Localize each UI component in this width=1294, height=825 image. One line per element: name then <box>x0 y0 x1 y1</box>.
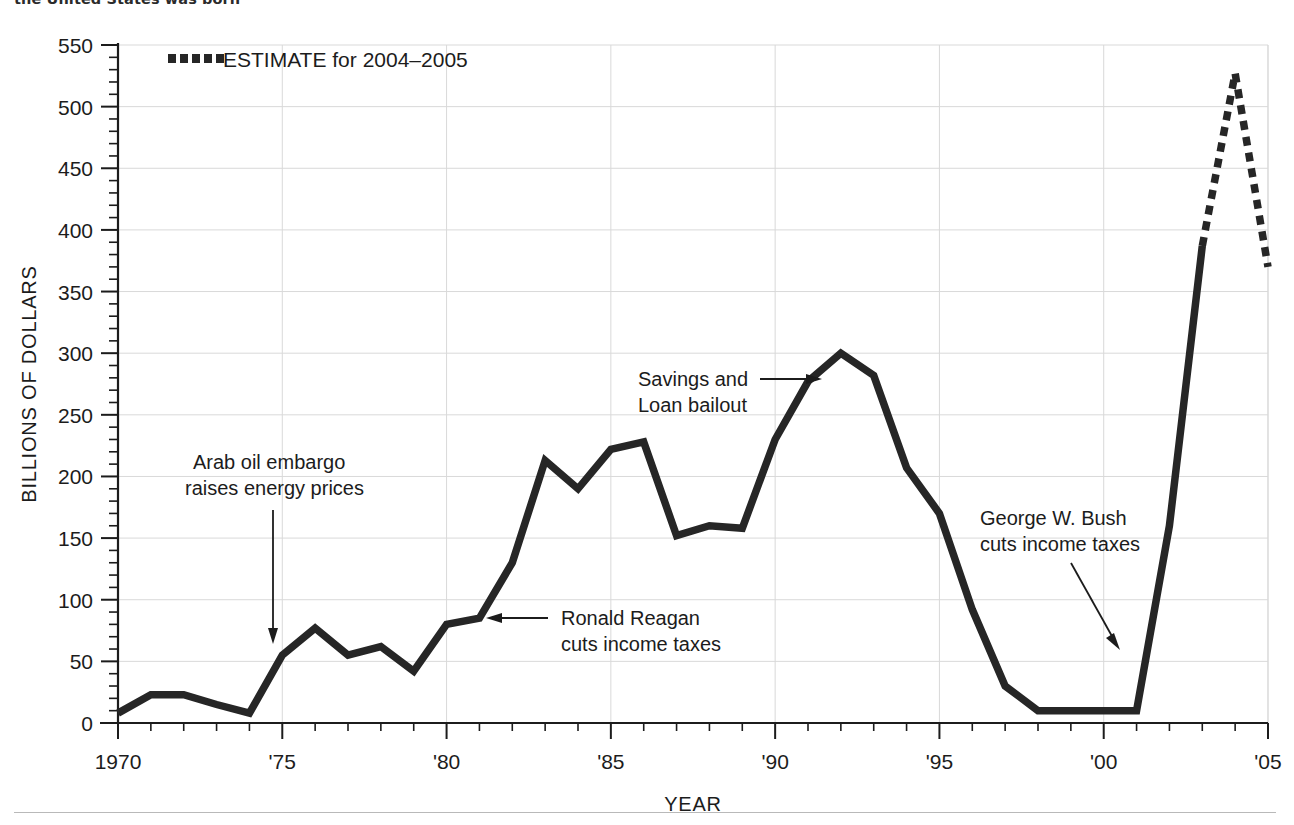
y-tick-label: 200 <box>58 465 93 488</box>
annotations-layer: Arab oil embargo raises energy prices Ro… <box>185 368 1140 655</box>
legend-swatch-square <box>192 54 200 63</box>
annotation-george-w-bush: George W. Bush cuts income taxes <box>980 507 1140 650</box>
x-tick-label: '85 <box>597 750 624 773</box>
annotation-arab-oil-embargo: Arab oil embargo raises energy prices <box>185 451 364 644</box>
annotation-george-w-bush-line1: George W. Bush <box>980 507 1127 529</box>
x-axis-tick-labels: 1970'75'80'85'90'95'00'05 <box>95 750 1282 773</box>
y-tick-label: 250 <box>58 404 93 427</box>
legend-swatch-square <box>168 54 176 63</box>
chart-legend: ESTIMATE for 2004–2005 <box>168 48 468 71</box>
x-tick-label: '75 <box>269 750 296 773</box>
annotation-arab-oil-embargo-line1: Arab oil embargo <box>193 451 345 473</box>
annotation-arab-oil-embargo-line2: raises energy prices <box>185 477 364 499</box>
annotation-savings-and-loan-line2: Loan bailout <box>638 394 747 416</box>
annotation-george-w-bush-arrowhead <box>1106 633 1120 650</box>
annotation-ronald-reagan-line1: Ronald Reagan <box>561 607 700 629</box>
x-tick-label: '80 <box>433 750 460 773</box>
x-tick-label: '05 <box>1254 750 1281 773</box>
annotation-arab-oil-embargo-arrowhead <box>268 628 278 644</box>
bottom-rule <box>14 812 1276 813</box>
annotation-george-w-bush-line2: cuts income taxes <box>980 533 1140 555</box>
deficit-chart-figure: 050100150200250300350400450500550 1970'7… <box>0 0 1294 825</box>
y-axis-title: BILLIONS OF DOLLARS <box>18 265 40 503</box>
annotation-ronald-reagan-arrowhead <box>486 613 502 623</box>
y-tick-label: 400 <box>58 219 93 242</box>
x-tick-label: '00 <box>1090 750 1117 773</box>
y-tick-label: 100 <box>58 589 93 612</box>
legend-label-estimate: ESTIMATE for 2004–2005 <box>223 48 468 71</box>
y-tick-label: 50 <box>70 650 93 673</box>
x-axis-ticks <box>118 723 1268 739</box>
annotation-george-w-bush-leader <box>1071 563 1113 638</box>
legend-swatch-square <box>204 54 212 63</box>
y-tick-label: 500 <box>58 96 93 119</box>
legend-swatch-square <box>180 54 188 63</box>
x-tick-label: '95 <box>926 750 953 773</box>
annotation-ronald-reagan-line2: cuts income taxes <box>561 633 721 655</box>
y-tick-label: 350 <box>58 281 93 304</box>
y-tick-label: 0 <box>81 712 93 735</box>
legend-dotted-swatch <box>168 54 224 63</box>
y-tick-label: 150 <box>58 527 93 550</box>
annotation-ronald-reagan: Ronald Reagan cuts income taxes <box>486 607 721 655</box>
annotation-savings-and-loan-line1: Savings and <box>638 368 748 390</box>
x-tick-label: 1970 <box>95 750 142 773</box>
y-tick-label: 550 <box>58 34 93 57</box>
y-tick-label: 300 <box>58 342 93 365</box>
y-tick-label: 450 <box>58 157 93 180</box>
y-axis-tick-labels: 050100150200250300350400450500550 <box>58 34 93 735</box>
y-axis-ticks <box>101 45 118 723</box>
chart-canvas: 050100150200250300350400450500550 1970'7… <box>0 0 1294 825</box>
x-tick-label: '90 <box>761 750 788 773</box>
series-line-estimate <box>1202 73 1268 267</box>
